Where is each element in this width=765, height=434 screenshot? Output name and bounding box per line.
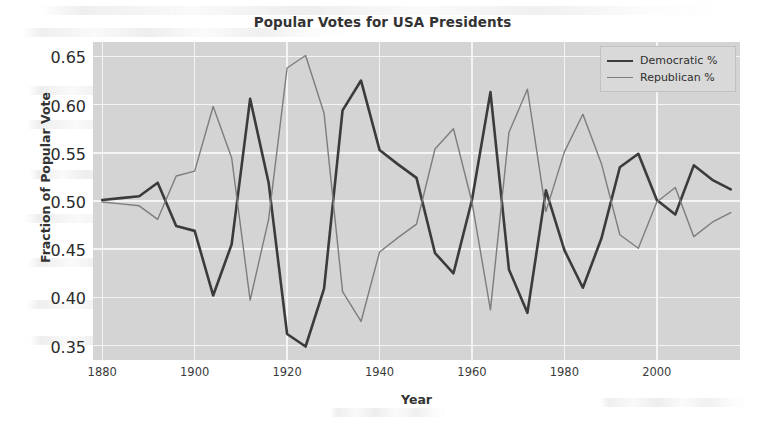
x-tick-label: 1880	[72, 365, 132, 379]
legend-item-label: Republican %	[640, 71, 715, 84]
legend-swatch-icon	[607, 77, 633, 78]
legend-swatch-icon	[607, 60, 633, 62]
y-tick-label: 0.65	[34, 48, 86, 67]
x-tick-label: 1920	[257, 365, 317, 379]
y-tick-label: 0.50	[34, 193, 86, 212]
legend-item-label: Democratic %	[640, 54, 717, 67]
x-axis-label: Year	[93, 392, 740, 407]
y-tick-label: 0.55	[34, 145, 86, 164]
chart-figure: Popular Votes for USA Presidents Fractio…	[0, 0, 765, 434]
chart-legend: Democratic %Republican %	[600, 46, 736, 92]
y-tick-label: 0.45	[34, 241, 86, 260]
y-tick-label: 0.40	[34, 289, 86, 308]
x-tick-label: 1900	[165, 365, 225, 379]
y-axis-label: Fraction of Popular Vote	[38, 28, 53, 328]
chart-title: Popular Votes for USA Presidents	[0, 14, 765, 30]
legend-item[interactable]: Republican %	[607, 69, 729, 86]
x-tick-label: 2000	[627, 365, 687, 379]
x-tick-label: 1940	[350, 365, 410, 379]
x-tick-label: 1960	[442, 365, 502, 379]
y-tick-label: 0.60	[34, 97, 86, 116]
x-tick-label: 1980	[534, 365, 594, 379]
series-line	[102, 55, 731, 321]
legend-item[interactable]: Democratic %	[607, 52, 729, 69]
y-tick-label: 0.35	[34, 338, 86, 357]
series-line	[102, 81, 731, 347]
